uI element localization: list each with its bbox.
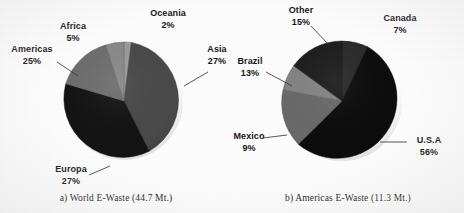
pie-label-africa: Africa 5% xyxy=(52,21,94,44)
pie-label-usa: U.S.A 56% xyxy=(408,135,450,158)
pie-label-brazil: Brazil 13% xyxy=(232,56,268,79)
pie-chart-world xyxy=(63,40,185,162)
chart-panel-americas: Other 15% Canada 7% Brazil 13% Mexico 9%… xyxy=(232,0,464,213)
pie-shading-americas xyxy=(282,41,402,161)
pie-label-other: Other 15% xyxy=(280,5,322,28)
pie-label-mexico: Mexico 9% xyxy=(228,131,270,154)
caption-americas: b) Americas E-Waste (11.3 Mt.) xyxy=(232,193,464,203)
pie-label-asia: Asia 27% xyxy=(203,44,231,67)
caption-world: a) World E-Waste (44.7 Mt.) xyxy=(0,193,232,203)
pie-svg-americas xyxy=(280,39,404,163)
pie-label-canada: Canada 7% xyxy=(376,13,424,36)
pie-svg-world xyxy=(63,40,185,162)
pie-label-oceania: Oceania 2% xyxy=(146,8,190,31)
pie-label-europa: Europa 27% xyxy=(49,164,93,187)
figure-root: Africa 5% Americas 25% Oceania 2% Asia 2… xyxy=(0,0,464,213)
pie-label-americas: Americas 25% xyxy=(6,44,58,67)
chart-panel-world: Africa 5% Americas 25% Oceania 2% Asia 2… xyxy=(0,0,232,213)
pie-shading-world xyxy=(65,42,183,160)
pie-chart-americas xyxy=(280,39,404,163)
leader-asia xyxy=(184,72,208,86)
